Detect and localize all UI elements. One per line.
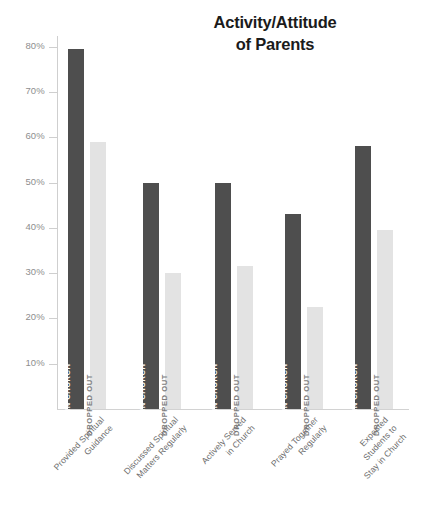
bar-series-label: STAYED IN CHURCH xyxy=(347,363,363,446)
y-axis-line xyxy=(57,36,58,409)
bar-series-label: STAYED IN CHURCH xyxy=(135,363,151,446)
y-axis-tick-label: 20% xyxy=(25,311,45,322)
y-axis-tick-mark xyxy=(49,228,57,229)
y-axis-tick-label: 10% xyxy=(25,357,45,368)
y-axis-tick-label: 60% xyxy=(25,130,45,141)
y-axis-tick-label: 50% xyxy=(25,176,45,187)
y-axis-tick-mark xyxy=(49,137,57,138)
y-axis-tick-mark xyxy=(49,364,57,365)
bar-dropped-out[interactable]: DROPPED OUT xyxy=(237,266,253,409)
bar-dropped-out[interactable]: DROPPED OUT xyxy=(165,273,181,409)
bar-series-label: STAYED IN CHURCH xyxy=(277,363,293,446)
y-axis-tick-mark xyxy=(49,47,57,48)
chart-title-line-2: of Parents xyxy=(236,35,315,53)
chart-title: Activity/Attitude of Parents xyxy=(150,12,400,56)
bar-dropped-out[interactable]: DROPPED OUT xyxy=(307,307,323,409)
chart-title-line-1: Activity/Attitude xyxy=(213,13,336,31)
bar-series-label: STAYED IN CHURCH xyxy=(60,363,76,446)
y-axis-tick-label: 30% xyxy=(25,266,45,277)
y-axis-tick-label: 80% xyxy=(25,40,45,51)
y-axis-tick-mark xyxy=(49,273,57,274)
y-axis-tick-mark xyxy=(49,92,57,93)
bar-dropped-out[interactable]: DROPPED OUT xyxy=(377,230,393,409)
y-axis-tick-mark xyxy=(49,183,57,184)
y-axis-tick-label: 40% xyxy=(25,221,45,232)
y-axis-tick-label: 70% xyxy=(25,85,45,96)
y-axis-tick-mark xyxy=(49,318,57,319)
bar-dropped-out[interactable]: DROPPED OUT xyxy=(90,142,106,409)
bar-stayed-in-church[interactable]: STAYED IN CHURCH xyxy=(355,146,371,409)
bar-chart: Activity/Attitude of Parents 80%70%60%50… xyxy=(0,0,423,508)
bar-stayed-in-church[interactable]: STAYED IN CHURCH xyxy=(68,49,84,409)
